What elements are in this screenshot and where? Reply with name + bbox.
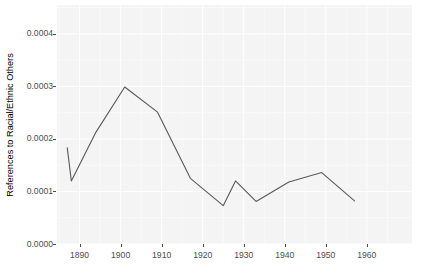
y-tick-label: 0.0004 — [15, 28, 53, 38]
x-tick-label: 1930 — [234, 250, 253, 260]
x-tick-label: 1950 — [316, 250, 335, 260]
y-tick-label: 0.0001 — [15, 186, 53, 196]
x-axis-tick-labels: 18901900191019201930194019501960 — [0, 249, 423, 269]
y-tick-mark — [53, 139, 56, 140]
x-tick-label: 1910 — [152, 250, 171, 260]
x-tick-mark — [326, 244, 327, 247]
y-tick-mark — [53, 86, 56, 87]
y-axis-tick-labels: 0.00000.00010.00020.00030.0004 — [13, 0, 53, 275]
x-tick-mark — [121, 244, 122, 247]
x-tick-label: 1900 — [111, 250, 130, 260]
grid-lines-minor — [57, 5, 412, 244]
chart-container: References to Racial/Ethnic Others 0.000… — [0, 0, 423, 275]
x-tick-mark — [367, 244, 368, 247]
x-tick-label: 1940 — [275, 250, 294, 260]
x-tick-mark — [203, 244, 204, 247]
y-tick-mark — [53, 244, 56, 245]
x-tick-mark — [80, 244, 81, 247]
x-tick-label: 1890 — [70, 250, 89, 260]
x-tick-mark — [244, 244, 245, 247]
line-series-references — [67, 87, 354, 206]
y-tick-label: 0.0003 — [15, 81, 53, 91]
y-tick-label: 0.0000 — [15, 239, 53, 249]
x-tick-mark — [285, 244, 286, 247]
x-tick-label: 1920 — [193, 250, 212, 260]
y-tick-label: 0.0002 — [15, 133, 53, 143]
y-tick-mark — [53, 191, 56, 192]
x-tick-label: 1960 — [357, 250, 376, 260]
grid-lines-major — [57, 5, 412, 244]
x-tick-mark — [162, 244, 163, 247]
y-tick-mark — [53, 34, 56, 35]
plot-area-svg — [57, 5, 412, 244]
plot-panel — [57, 5, 412, 244]
